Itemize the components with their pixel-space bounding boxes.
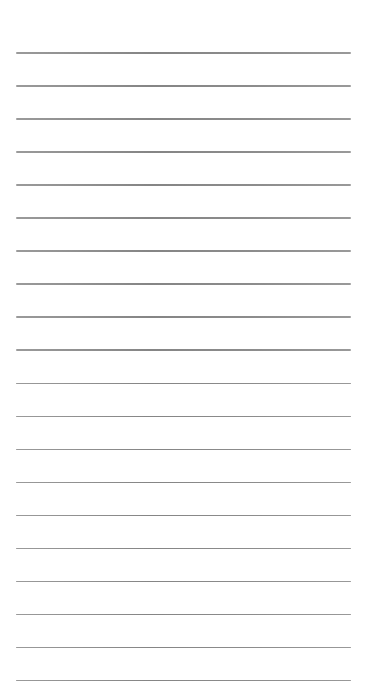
ruled-line <box>16 581 351 583</box>
ruled-line <box>16 283 351 285</box>
ruled-line <box>16 118 351 120</box>
ruled-line <box>16 449 351 451</box>
ruled-line <box>16 680 351 682</box>
ruled-line <box>16 316 351 318</box>
ruled-line <box>16 614 351 616</box>
ruled-line <box>16 383 351 385</box>
ruled-line <box>16 515 351 517</box>
ruled-line <box>16 217 351 219</box>
ruled-line <box>16 85 351 87</box>
ruled-line <box>16 250 351 252</box>
ruled-line <box>16 349 351 351</box>
ruled-line <box>16 416 351 418</box>
ruled-line <box>16 482 351 484</box>
ruled-page <box>0 0 372 699</box>
ruled-line <box>16 184 351 186</box>
ruled-line <box>16 647 351 649</box>
ruled-line <box>16 52 351 54</box>
ruled-line <box>16 548 351 550</box>
ruled-line <box>16 151 351 153</box>
